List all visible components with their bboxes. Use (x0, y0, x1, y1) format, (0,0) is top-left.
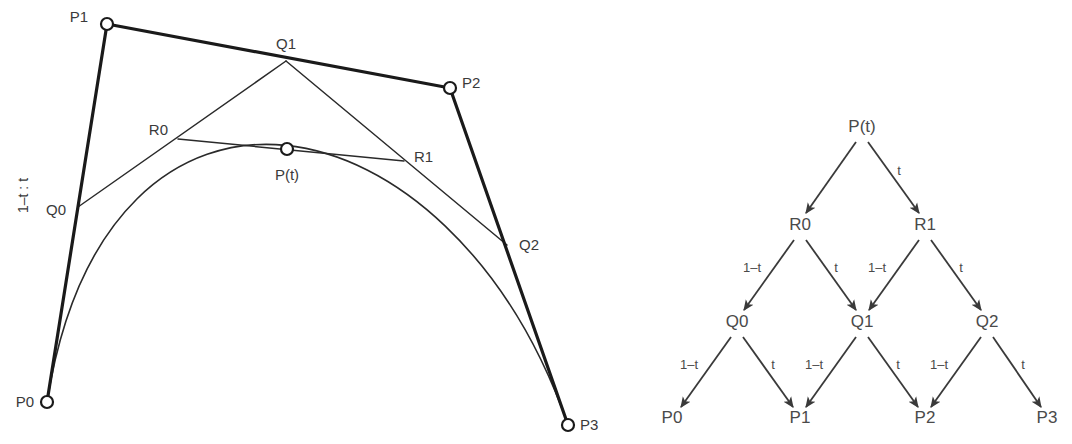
tree-edge-weight: 1–t (680, 357, 698, 372)
point-marker-pt (281, 143, 293, 155)
tree-node-pt: P(t) (848, 117, 875, 136)
tree-edge-r1-to-q1 (869, 240, 919, 310)
ratio-annotation: 1–t : t (15, 178, 31, 213)
tree-node-q0: Q0 (726, 312, 749, 331)
point-marker-p1 (101, 18, 113, 30)
point-label-q0: Q0 (46, 201, 66, 218)
de-casteljau-tree: t1–tt1–tt1–tt1–tt1–ttP(t)R0R1Q0Q1Q2P0P1P… (662, 117, 1058, 427)
point-label-r0: R0 (149, 121, 168, 138)
tree-edge-weight: 1–t (743, 260, 761, 275)
tree-edge-r0-to-q1 (806, 240, 856, 310)
point-label-q2: Q2 (519, 236, 539, 253)
tree-edge-pt-to-r0 (806, 142, 856, 213)
tree-node-p1: P1 (790, 408, 811, 427)
point-label-pt: P(t) (275, 166, 299, 183)
tree-edge-q0-to-p0 (681, 337, 731, 407)
tree-node-p2: P2 (915, 408, 936, 427)
tree-edge-q0-to-p1 (743, 337, 793, 407)
tree-edge-r1-to-q2 (931, 240, 981, 310)
bezier-de-casteljau-figure: P1P2P0P3Q0Q1Q2R0R1P(t)1–t : t t1–tt1–tt1… (0, 0, 1072, 444)
tree-edge-q2-to-p3 (993, 337, 1041, 407)
tree-edge-weight: t (834, 260, 838, 275)
point-label-p3: P3 (580, 416, 598, 433)
tree-edge-q1-to-p1 (806, 337, 856, 407)
point-label-p0: P0 (16, 393, 34, 410)
hull-segment-p1-p2 (107, 24, 450, 88)
point-marker-p0 (41, 396, 53, 408)
point-label-q1: Q1 (276, 35, 296, 52)
tree-node-r0: R0 (789, 215, 811, 234)
tree-edge-weight: 1–t (868, 260, 886, 275)
tree-edge-r0-to-q0 (744, 240, 794, 310)
point-label-p1: P1 (70, 8, 88, 25)
tree-edge-weight: t (959, 260, 963, 275)
bezier-curve (47, 144, 568, 425)
tree-edge-weight: t (896, 357, 900, 372)
figure-canvas: P1P2P0P3Q0Q1Q2R0R1P(t)1–t : t t1–tt1–tt1… (0, 0, 1072, 444)
tree-node-p3: P3 (1037, 408, 1058, 427)
construction-segment-q0-q1 (78, 61, 286, 207)
tree-edge-weight: t (1021, 357, 1025, 372)
tree-edge-weight: t (771, 357, 775, 372)
tree-edge-weight: 1–t (805, 357, 823, 372)
tree-edge-pt-to-r1 (868, 142, 919, 213)
point-label-r1: R1 (414, 148, 433, 165)
tree-node-r1: R1 (914, 215, 936, 234)
tree-node-q2: Q2 (976, 312, 999, 331)
point-label-p2: P2 (462, 74, 480, 91)
tree-edge-weight: t (897, 163, 901, 178)
tree-edge-q1-to-p2 (868, 337, 918, 407)
tree-edge-q2-to-p2 (931, 337, 981, 407)
point-marker-p2 (444, 82, 456, 94)
point-marker-p3 (562, 419, 574, 431)
hull-segment-p2-p3 (450, 88, 568, 425)
tree-node-p0: P0 (662, 408, 683, 427)
de-casteljau-geometry: P1P2P0P3Q0Q1Q2R0R1P(t)1–t : t (15, 8, 598, 433)
tree-node-q1: Q1 (851, 312, 874, 331)
tree-edge-weight: 1–t (930, 357, 948, 372)
